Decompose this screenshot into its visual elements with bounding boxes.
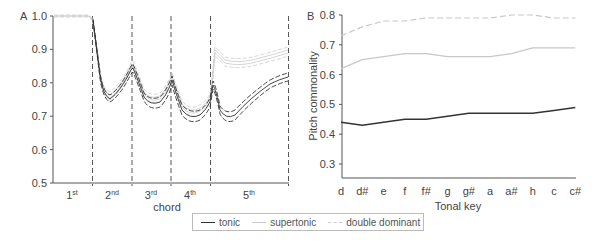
segment-label-2: 2nd (105, 189, 119, 201)
panel-a-chord-dividers (93, 16, 289, 186)
panel-b-x-label: Tonal key (435, 200, 482, 212)
panel-b-xtick: f (403, 185, 407, 197)
panel-b-line-double-dominant (341, 15, 575, 36)
panel-b-ytick: 0.7 (320, 39, 335, 51)
panel-b-ytick: 0.3 (320, 158, 335, 170)
segment-label-1: 1st (66, 189, 78, 201)
panel-a-ytick: 0.5 (32, 177, 47, 189)
segment-label-5: 5th (243, 189, 255, 201)
panel-a-x-label: chord (153, 201, 181, 213)
panel-a-ytick: 0.8 (32, 77, 47, 89)
panel-b-label: B (307, 10, 314, 22)
double-dominant-line-swatch (328, 222, 342, 223)
legend-item-supertonic: supertonic (252, 217, 316, 228)
panel-b-xtick: d (338, 185, 344, 197)
figure: A 1.0 0.9 0.8 0.7 0.6 0.5 (0, 0, 600, 243)
panel-a-ytick: 0.6 (32, 144, 47, 156)
panel-a-x-labels: 1st 2nd 3rd 4th 5th chord (66, 189, 255, 213)
panel-b-ytick: 0.4 (320, 128, 335, 140)
legend-label: tonic (219, 217, 240, 228)
panel-a-ytick: 0.9 (32, 43, 47, 55)
panel-b-xtick: a# (505, 185, 518, 197)
panel-b-xtick: f# (422, 185, 432, 197)
panel-b-line-tonic (341, 107, 575, 125)
panel-b-xtick: c# (569, 185, 582, 197)
panel-b-ytick: 0.6 (320, 69, 335, 81)
panel-b-xtick: g (444, 185, 450, 197)
panel-b-ytick: 0.8 (320, 9, 335, 21)
panel-a-ytick: 0.7 (32, 110, 47, 122)
panel-b-xtick: a (487, 185, 494, 197)
panel-b: B 0.8 0.7 0.6 0.5 0.4 0.3 Pitch commonal… (307, 9, 582, 212)
legend: tonic supertonic double dominant (192, 213, 424, 231)
supertonic-line-swatch (252, 222, 266, 223)
panel-b-line-supertonic (341, 48, 575, 69)
panel-b-ytick: 0.5 (320, 98, 335, 110)
panel-b-x-ticks: d d# e f f# g g# a a# h c c# Tonal key (338, 185, 582, 212)
segment-label-4: 4th (184, 189, 196, 201)
panel-a-ytick: 1.0 (32, 10, 47, 22)
panel-a-tonic-curves (93, 19, 288, 122)
panel-a: A 1.0 0.9 0.8 0.7 0.6 0.5 (20, 10, 289, 213)
panel-b-y-label: Pitch commonality (307, 51, 319, 141)
legend-label: double dominant (346, 217, 420, 228)
panel-a-y-ticks: 1.0 0.9 0.8 0.7 0.6 0.5 (32, 10, 53, 189)
legend-item-tonic: tonic (201, 217, 240, 228)
panel-b-y-ticks: 0.8 0.7 0.6 0.5 0.4 0.3 (320, 9, 342, 170)
segment-label-3: 3rd (145, 189, 157, 201)
tonic-line-swatch (201, 222, 215, 223)
panel-b-xtick: g# (463, 185, 476, 197)
panel-a-label: A (20, 10, 28, 22)
legend-label: supertonic (270, 217, 316, 228)
legend-item-double-dominant: double dominant (328, 217, 420, 228)
panel-b-xtick: h (530, 185, 536, 197)
panel-b-xtick: d# (356, 185, 369, 197)
panel-b-xtick: c (551, 185, 557, 197)
panel-b-xtick: e (381, 185, 387, 197)
